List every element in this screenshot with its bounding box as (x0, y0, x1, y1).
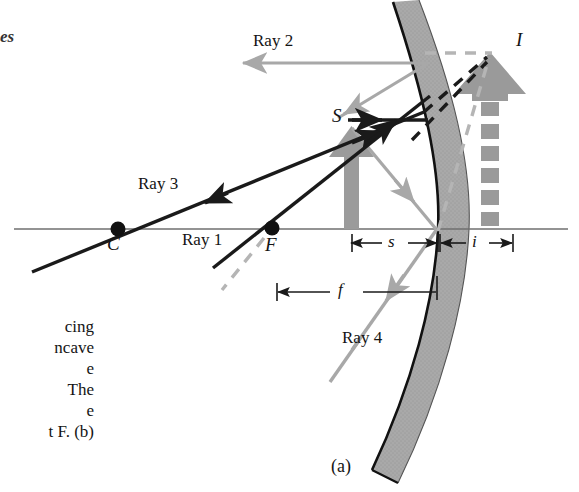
ray-3 (32, 112, 424, 272)
label-dimension-i: i (472, 233, 477, 250)
label-ray-1: Ray 1 (182, 231, 222, 248)
label-dimension-s: s (388, 233, 395, 250)
label-point-F: F (265, 235, 277, 254)
caption-line: e (0, 402, 94, 419)
figure-concave-mirror-ray-diagram: Ray 2 Ray 3 Ray 1 Ray 4 C F S I s i f (a… (0, 0, 579, 492)
page-edge-text-fragment: es (0, 27, 14, 47)
caption-line: cing (0, 318, 94, 335)
caption-fragment: cing ncave e The e t F. (b) (0, 318, 94, 420)
label-ray-3: Ray 3 (138, 175, 178, 192)
panel-label-a: (a) (331, 457, 351, 475)
label-point-I: I (516, 30, 522, 49)
caption-line: t F. (b) (0, 423, 94, 440)
caption-line: The (0, 381, 94, 398)
caption-line: ncave (0, 339, 94, 356)
label-point-S: S (332, 106, 342, 125)
label-point-C: C (107, 234, 120, 253)
label-ray-2: Ray 2 (253, 32, 293, 49)
caption-line: e (0, 360, 94, 377)
concave-mirror (372, 0, 469, 483)
label-ray-4: Ray 4 (342, 329, 382, 346)
label-dimension-f: f (338, 281, 343, 298)
dimension-f (277, 276, 437, 301)
